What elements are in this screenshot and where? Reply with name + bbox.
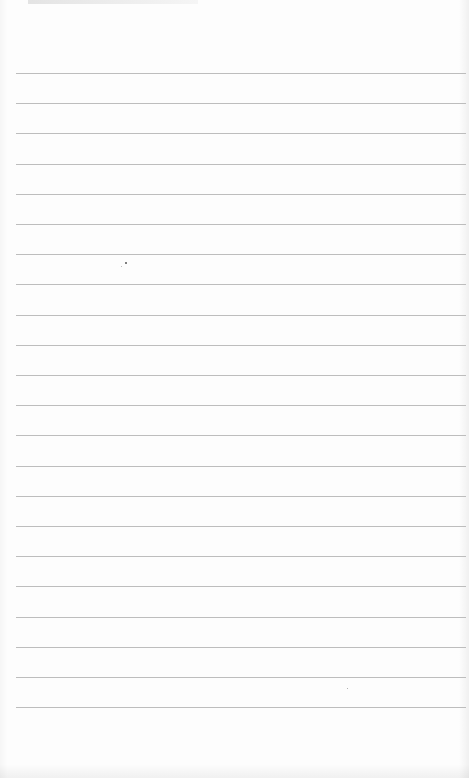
ruled-line	[16, 677, 466, 678]
ruled-line	[16, 345, 466, 346]
ruled-line	[16, 466, 466, 467]
ruled-line	[16, 375, 466, 376]
ruled-line	[16, 254, 466, 255]
ruled-line	[16, 617, 466, 618]
scan-edge-smudge	[28, 0, 198, 4]
ruled-line	[16, 194, 466, 195]
lined-paper-page	[0, 0, 469, 778]
ruled-line	[16, 707, 466, 708]
ink-speck	[125, 262, 127, 264]
ruled-line	[16, 315, 466, 316]
ruled-line	[16, 133, 466, 134]
ruled-line	[16, 556, 466, 557]
ruled-line	[16, 435, 466, 436]
ink-speck	[121, 266, 122, 267]
ruled-line	[16, 526, 466, 527]
ruled-line	[16, 224, 466, 225]
ruled-line	[16, 73, 466, 74]
ruled-line	[16, 647, 466, 648]
ink-speck	[347, 688, 348, 689]
ruled-line	[16, 496, 466, 497]
ruled-line	[16, 164, 466, 165]
ruled-line	[16, 405, 466, 406]
ruled-line	[16, 103, 466, 104]
ruled-line	[16, 284, 466, 285]
ruled-line	[16, 586, 466, 587]
